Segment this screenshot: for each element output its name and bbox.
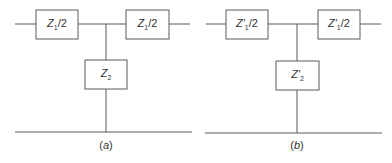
- diagram-a-series-left-label: Z1/2: [36, 17, 78, 31]
- diagram-a-series-right-label: Z1/2: [126, 17, 169, 31]
- diagram-a-caption: (a): [86, 139, 126, 151]
- diagram-b-series-right-label: Z′1/2: [318, 17, 360, 31]
- diagram-b-caption: (b): [277, 139, 317, 151]
- diagram-b-shunt-label: Z′2: [276, 68, 319, 82]
- diagram-a-shunt-label: Z2: [85, 67, 127, 81]
- diagram-b-series-left-label: Z′1/2: [226, 17, 268, 31]
